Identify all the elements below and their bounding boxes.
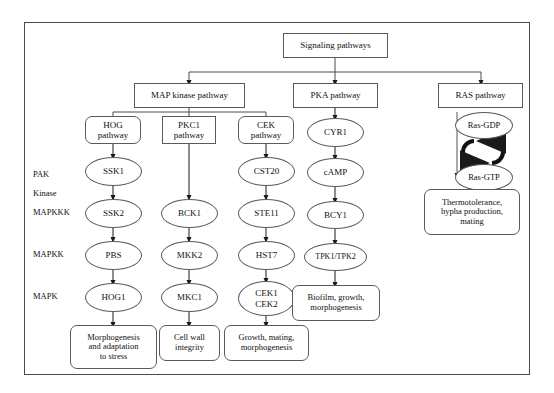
node-mkk2[interactable]: MKK2 [161, 241, 218, 270]
node-ssk2-label: SSK2 [103, 208, 124, 218]
pkc1-pathway-line2: pathway [174, 130, 205, 140]
outcome-ras-box[interactable]: Thermotolerance, hypha production, matin… [424, 189, 520, 235]
node-ras-gdp[interactable]: Ras-GDP [455, 112, 513, 139]
pkc1-pathway-box[interactable]: PKC1 pathway [162, 116, 216, 144]
node-pbs[interactable]: PBS [85, 241, 142, 270]
outcome-cek-box[interactable]: Growth, mating, morphogenesis [224, 325, 309, 361]
node-bck1-label: BCK1 [178, 208, 201, 218]
node-cek1-cek2-label: CEK1 CEK2 [255, 288, 278, 308]
node-tpk1-tpk2-label: TPK1/TPK2 [315, 253, 355, 262]
ras-pathway-box[interactable]: RAS pathway [438, 83, 523, 108]
node-ras-gtp[interactable]: Ras-GTP [455, 164, 513, 191]
hog-pathway-box[interactable]: HOG pathway [85, 116, 141, 144]
signaling-pathways-label: Signaling pathways [300, 40, 371, 50]
outcome-cek-label: Growth, mating, morphogenesis [239, 333, 295, 352]
node-camp-label: cAMP [324, 167, 348, 177]
node-ssk1[interactable]: SSK1 [85, 157, 142, 186]
outcome-pka-box[interactable]: Biofilm, growth, morphogenesis [292, 285, 380, 321]
outcome-hog-line3: to stress [100, 351, 128, 361]
node-hog1-label: HOG1 [102, 292, 126, 302]
outcome-pkc1-box[interactable]: Cell wall integrity [159, 325, 220, 361]
node-cyr1[interactable]: CYR1 [307, 118, 364, 147]
node-ste11[interactable]: STE11 [238, 199, 295, 228]
outcome-pka-line2: morphogenesis [310, 302, 361, 312]
node-camp[interactable]: cAMP [307, 158, 364, 187]
node-bck1[interactable]: BCK1 [161, 199, 218, 228]
node-ssk2[interactable]: SSK2 [85, 199, 142, 228]
hog-pathway-line2: pathway [98, 130, 129, 140]
node-cek2-label: CEK2 [255, 299, 278, 309]
pkc1-pathway-label: PKC1 pathway [174, 120, 205, 140]
row-label-pak-line2: Kinase [33, 188, 57, 198]
node-bcy1[interactable]: BCY1 [307, 201, 364, 229]
node-ras-gtp-label: Ras-GTP [468, 173, 500, 183]
outcome-pka-label: Biofilm, growth, morphogenesis [308, 293, 365, 312]
outcome-ras-line3: mating [460, 216, 484, 226]
node-cst20[interactable]: CST20 [238, 157, 295, 186]
outcome-pkc1-line2: integrity [175, 342, 204, 352]
cek-pathway-line1: CEK [257, 120, 275, 130]
node-hst7[interactable]: HST7 [238, 241, 295, 270]
pkc1-pathway-line1: PKC1 [178, 120, 200, 130]
outcome-pkc1-label: Cell wall integrity [174, 333, 205, 352]
outcome-ras-label: Thermotolerance, hypha production, matin… [441, 198, 503, 227]
outcome-ras-line1: Thermotolerance, [442, 197, 502, 207]
node-cyr1-label: CYR1 [324, 127, 347, 137]
hog-pathway-label: HOG pathway [98, 120, 129, 140]
node-hog1[interactable]: HOG1 [85, 283, 142, 312]
node-ras-gdp-label: Ras-GDP [468, 121, 501, 131]
node-ssk1-label: SSK1 [103, 166, 124, 176]
hog-pathway-line1: HOG [103, 120, 123, 130]
pka-pathway-label: PKA pathway [310, 90, 360, 100]
node-tpk1-tpk2[interactable]: TPK1/TPK2 [304, 243, 367, 271]
outcome-hog-line1: Morphogenesis [87, 332, 139, 342]
outcome-cek-line1: Growth, mating, [239, 332, 295, 342]
ras-pathway-label: RAS pathway [455, 90, 505, 100]
diagram-canvas: PAK Kinase MAPKKK MAPKK MAPK Signaling p… [0, 0, 554, 393]
map-kinase-pathway-box[interactable]: MAP kinase pathway [134, 83, 245, 108]
outcome-ras-line2: hypha production, [441, 206, 503, 216]
row-label-pak-line1: PAK [33, 169, 49, 179]
outcome-pkc1-line1: Cell wall [174, 332, 205, 342]
map-kinase-pathway-label: MAP kinase pathway [151, 90, 228, 100]
outcome-hog-line2: and adaptation [89, 341, 139, 351]
pka-pathway-box[interactable]: PKA pathway [293, 83, 378, 108]
outcome-hog-box[interactable]: Morphogenesis and adaptation to stress [70, 325, 157, 369]
node-bcy1-label: BCY1 [324, 210, 347, 220]
cek-pathway-line2: pathway [251, 130, 282, 140]
outcome-hog-label: Morphogenesis and adaptation to stress [87, 333, 139, 362]
signaling-pathways-box[interactable]: Signaling pathways [283, 33, 388, 58]
cek-pathway-label: CEK pathway [251, 120, 282, 140]
node-mkc1[interactable]: MKC1 [161, 283, 218, 312]
cek-pathway-box[interactable]: CEK pathway [238, 116, 294, 144]
node-ste11-label: STE11 [254, 208, 279, 218]
node-cek1-label: CEK1 [255, 288, 278, 298]
node-pbs-label: PBS [105, 250, 121, 260]
node-mkc1-label: MKC1 [177, 292, 202, 302]
node-cek1-cek2[interactable]: CEK1 CEK2 [238, 281, 295, 316]
outcome-cek-line2: morphogenesis [241, 342, 292, 352]
node-cst20-label: CST20 [254, 166, 280, 176]
node-hst7-label: HST7 [256, 250, 278, 260]
outcome-pka-line1: Biofilm, growth, [308, 292, 365, 302]
node-mkk2-label: MKK2 [177, 250, 203, 260]
